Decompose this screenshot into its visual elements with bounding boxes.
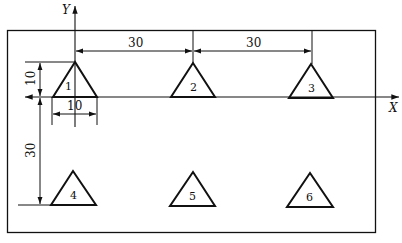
dimension-label-base: 10 bbox=[67, 99, 82, 113]
dimension-label-height: 10 bbox=[24, 71, 38, 86]
triangle-4: 4 bbox=[51, 171, 96, 205]
triangle-label-6: 6 bbox=[306, 191, 313, 204]
triangle-label-1: 1 bbox=[65, 80, 72, 93]
triangle-label-3: 3 bbox=[308, 82, 315, 95]
diagram-svg: Y X 30 30 10 30 10 1 2 3 4 5 6 bbox=[0, 0, 402, 243]
triangle-2: 2 bbox=[171, 63, 215, 97]
x-axis-label: X bbox=[388, 101, 398, 115]
y-axis-label: Y bbox=[62, 3, 71, 17]
triangle-label-5: 5 bbox=[189, 190, 196, 203]
triangle-6: 6 bbox=[287, 173, 333, 207]
dimension-label-top-2: 30 bbox=[246, 36, 261, 50]
dimension-label-top-1: 30 bbox=[128, 36, 143, 50]
dimension-label-row-spacing: 30 bbox=[24, 143, 38, 158]
triangle-5: 5 bbox=[170, 172, 215, 206]
triangle-label-4: 4 bbox=[70, 189, 77, 202]
triangle-label-2: 2 bbox=[190, 81, 197, 94]
triangle-3: 3 bbox=[289, 64, 333, 98]
layout-diagram: Y X 30 30 10 30 10 1 2 3 4 5 6 bbox=[0, 0, 402, 243]
